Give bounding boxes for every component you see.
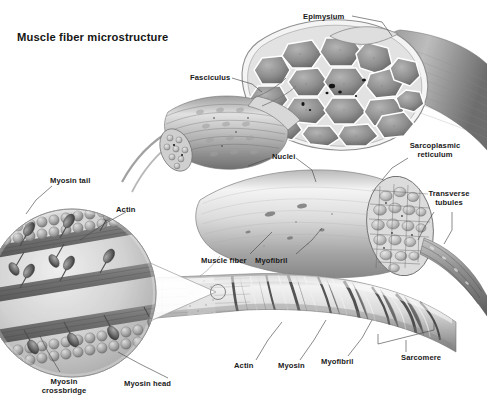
label-myofibril-lower: Myofibril [321, 357, 354, 366]
label-myosin-head: Myosin head [124, 379, 171, 388]
leader-myofibril-lower [348, 320, 372, 356]
label-myofibril-upper: Myofibril [255, 256, 288, 265]
label-crossbridge-line2: crossbridge [42, 386, 87, 395]
label-myosin-lower: Myosin [278, 361, 305, 370]
label-myosin-tail: Myosin tail [50, 176, 90, 185]
label-nuclei: Nuclei [272, 152, 295, 161]
leader-myosin-tail [26, 186, 52, 214]
label-actin-lower: Actin [234, 361, 253, 370]
leader-myosin-lower [300, 320, 326, 360]
page-title: Muscle fiber microstructure [17, 31, 168, 43]
label-transverse-line2: tubules [435, 198, 463, 207]
label-sarcomere: Sarcomere [401, 353, 441, 362]
label-crossbridge-line1: Myosin [51, 377, 78, 386]
label-sarcoplasmic-line1: Sarcoplasmic [410, 141, 461, 150]
label-epimysium: Epimysium [303, 12, 344, 21]
label-muscle-fiber: Muscle fiber [201, 256, 247, 265]
transverse-tubules-structure [420, 238, 487, 316]
label-actin-upper: Actin [116, 205, 135, 214]
leader-myosin-head [118, 352, 168, 378]
leader-transverse-2 [444, 212, 452, 244]
label-myosin-crossbridge: Myosincrossbridge [33, 377, 95, 396]
label-sarcoplasmic-reticulum: Sarcoplasmicreticulum [406, 141, 464, 160]
label-fasciculus: Fasciculus [190, 73, 230, 82]
label-transverse-tubules: Transversetubules [421, 189, 477, 208]
label-sarcoplasmic-line2: reticulum [417, 150, 452, 159]
magnifier-circle-structure [0, 198, 226, 377]
leader-actin-lower [256, 322, 282, 360]
label-transverse-line1: Transverse [428, 189, 469, 198]
